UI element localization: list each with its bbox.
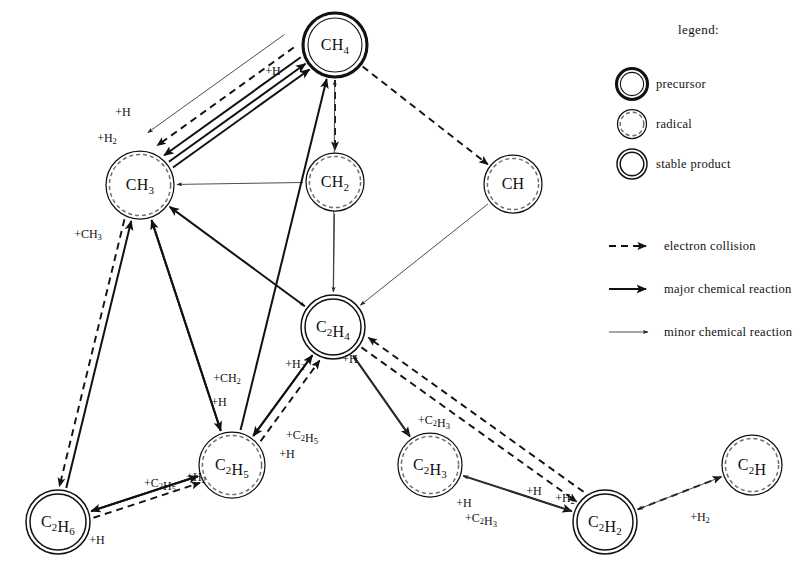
node-C2H4[interactable]: C2H4	[301, 295, 365, 359]
precursor-icon	[610, 64, 656, 104]
stable-product-icon	[610, 144, 656, 184]
legend-label-radical: radical	[656, 117, 692, 132]
legend-label-major-reaction: major chemical reaction	[664, 282, 792, 297]
major-reaction-arrow-icon	[606, 281, 664, 297]
legend-edge-minor: minor chemical reaction	[606, 324, 792, 340]
edge-C2H3-to-C2H4-minor	[353, 356, 410, 437]
legend-edge-electron: electron collision	[606, 238, 756, 254]
radical-icon	[610, 104, 656, 144]
edge-label: +H2	[690, 510, 710, 525]
edge-label: +H	[279, 447, 295, 461]
edge-label: +H	[211, 395, 227, 409]
node-CH[interactable]: CH	[484, 155, 542, 213]
edge-label: +H	[342, 352, 358, 366]
legend-node-precursor: precursor	[610, 64, 706, 104]
node-CH2[interactable]: CH2	[306, 153, 364, 211]
edge-label: +CH2	[213, 371, 241, 386]
edge-C2H6-to-CH3-major	[66, 221, 131, 488]
reaction-pathway-diagram: CH4CH3CH2CHC2H4C2H5C2H6C2H3C2H2C2H +H+H+…	[0, 0, 808, 577]
node-CH3[interactable]: CH3	[106, 151, 174, 219]
edge-label: +H2	[97, 131, 117, 146]
legend-label-stable-product: stable product	[656, 157, 731, 172]
edge-label: +C2H3	[418, 413, 450, 432]
edge-CH-to-C2H4-minor	[360, 204, 488, 305]
legend-label-minor-reaction: minor chemical reaction	[664, 325, 792, 340]
edge-CH3-to-C2H6-electron	[59, 219, 124, 486]
node-label-CH: CH	[502, 175, 525, 192]
legend-label-precursor: precursor	[656, 77, 706, 92]
edge-CH2-to-CH3-minor	[177, 182, 303, 184]
edge-label: +H	[265, 64, 281, 78]
edge-label: +C2H5	[286, 428, 318, 447]
node-C2H5[interactable]: C2H5	[199, 432, 265, 498]
minor-reaction-arrow-icon	[606, 324, 664, 340]
edge-label: +H	[115, 105, 131, 119]
edge-label: +H	[456, 496, 472, 510]
node-C2H6[interactable]: C2H6	[26, 490, 90, 554]
node-C2H[interactable]: C2H	[722, 435, 782, 495]
edge-C2H-to-C2H2-minor	[638, 477, 722, 509]
legend-node-stable-product: stable product	[610, 144, 731, 184]
legend-label-electron-collision: electron collision	[664, 239, 756, 254]
edge-label: +H	[526, 484, 542, 498]
edge-CH3-to-CH4-major	[169, 64, 306, 162]
edge-label: +C2H3	[465, 511, 497, 530]
edge-C2H4-to-CH3-major	[170, 207, 305, 306]
edge-label: +H2	[285, 357, 305, 372]
edge-CH4-to-CH-electron	[363, 67, 488, 165]
edge-label: +H2	[555, 491, 575, 506]
edge-label: +H	[89, 533, 105, 547]
node-CH4[interactable]: CH4	[303, 13, 367, 77]
legend: legend: precursor radical	[606, 6, 808, 346]
legend-edge-major: major chemical reaction	[606, 281, 792, 297]
edge-C2H5-to-CH4-major	[241, 79, 327, 430]
legend-title: legend:	[678, 22, 719, 38]
node-C2H2[interactable]: C2H2	[573, 490, 637, 554]
edge-label: +CH3	[74, 227, 102, 242]
node-C2H3[interactable]: C2H3	[398, 433, 462, 497]
electron-collision-arrow-icon	[606, 238, 664, 254]
legend-node-radical: radical	[610, 104, 692, 144]
